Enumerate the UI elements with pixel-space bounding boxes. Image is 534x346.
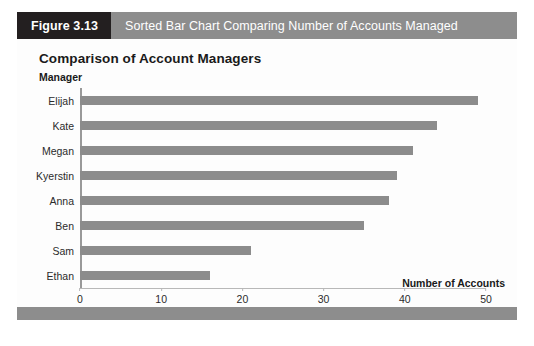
- x-axis-tick-label: 20: [237, 293, 249, 305]
- plot-area: ElijahKateMeganKyerstinAnnaBenSamEthan 0…: [80, 88, 486, 288]
- bar-row: Elijah: [80, 88, 478, 113]
- x-axis-tick: 40: [399, 288, 411, 305]
- bar-row: Megan: [80, 138, 413, 163]
- bar-row: Ethan: [80, 263, 210, 288]
- x-axis-tick: 10: [155, 288, 167, 305]
- y-axis-tick-label: Megan: [42, 145, 74, 157]
- bar: [80, 146, 413, 155]
- bar-row: Ben: [80, 213, 364, 238]
- y-axis-tick-label: Elijah: [48, 95, 74, 107]
- chart-panel: Comparison of Account Managers Manager N…: [17, 39, 517, 307]
- bar: [80, 221, 364, 230]
- y-axis-tick-label: Ben: [55, 220, 74, 232]
- bar: [80, 121, 437, 130]
- figure-caption: Sorted Bar Chart Comparing Number of Acc…: [111, 12, 458, 39]
- tick-mark: [242, 288, 243, 291]
- bar: [80, 246, 251, 255]
- x-axis-tick-label: 30: [318, 293, 330, 305]
- figure-header: Figure 3.13 Sorted Bar Chart Comparing N…: [17, 12, 517, 39]
- figure-number-label: Figure 3.13: [17, 12, 111, 39]
- x-axis-tick: 0: [77, 288, 83, 305]
- x-axis-tick: 50: [480, 288, 492, 305]
- tick-mark: [404, 288, 405, 291]
- y-axis-tick-label: Kate: [52, 120, 74, 132]
- y-axis-tick-label: Sam: [52, 245, 74, 257]
- bar-row: Kate: [80, 113, 437, 138]
- bar-row: Kyerstin: [80, 163, 397, 188]
- y-axis-title: Manager: [39, 71, 82, 83]
- x-axis-tick-label: 0: [77, 293, 83, 305]
- bar: [80, 96, 478, 105]
- x-axis-tick: 30: [318, 288, 330, 305]
- bar-row: Sam: [80, 238, 251, 263]
- x-axis-ticks: 01020304050: [80, 288, 486, 312]
- bar: [80, 196, 389, 205]
- tick-mark: [486, 288, 487, 291]
- y-axis-tick-label: Ethan: [47, 270, 74, 282]
- x-axis-tick: 20: [237, 288, 249, 305]
- x-axis-tick-label: 10: [155, 293, 167, 305]
- bar: [80, 271, 210, 280]
- bar-series: ElijahKateMeganKyerstinAnnaBenSamEthan: [80, 88, 486, 288]
- tick-mark: [161, 288, 162, 291]
- x-axis-tick-label: 50: [480, 293, 492, 305]
- figure-container: Figure 3.13 Sorted Bar Chart Comparing N…: [17, 12, 517, 334]
- bar: [80, 171, 397, 180]
- tick-mark: [323, 288, 324, 291]
- tick-mark: [80, 288, 81, 291]
- y-axis-tick-label: Anna: [49, 195, 74, 207]
- bar-row: Anna: [80, 188, 389, 213]
- y-axis-tick-label: Kyerstin: [36, 170, 74, 182]
- chart-title: Comparison of Account Managers: [39, 51, 261, 66]
- x-axis-tick-label: 40: [399, 293, 411, 305]
